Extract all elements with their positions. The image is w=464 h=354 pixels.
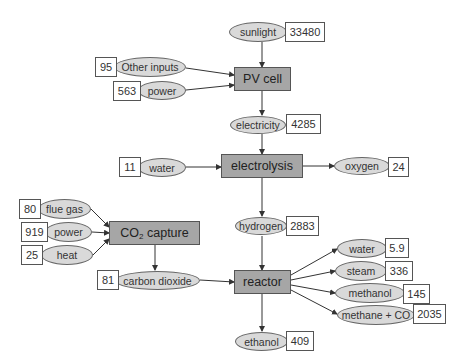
value-ethanol: 409 xyxy=(286,331,314,351)
flow-pv-power: power xyxy=(138,81,186,100)
process-label: CO2 capture xyxy=(120,226,188,241)
flow-electricity: electricity xyxy=(230,116,286,134)
flow-label: methanol xyxy=(348,287,391,299)
value-methanol: 145 xyxy=(403,284,430,304)
flow-ethanol: ethanol xyxy=(235,332,288,351)
flow-label: oxygen xyxy=(345,160,379,172)
value-flue-gas: 80 xyxy=(19,199,41,219)
flow-oxygen: oxygen xyxy=(334,157,390,175)
flow-methanol: methanol xyxy=(335,283,405,303)
process-electrolysis: electrolysis xyxy=(221,154,303,178)
flow-label: heat xyxy=(57,249,77,261)
flow-water-in: water xyxy=(138,158,186,177)
flow-water-out: water xyxy=(337,239,387,258)
flow-sunlight: sunlight xyxy=(229,22,287,42)
flow-label: ethanol xyxy=(244,336,278,348)
value-methane-co: 2035 xyxy=(413,304,446,324)
value-carbon-dioxide: 81 xyxy=(97,270,119,290)
flow-label: hydrogen xyxy=(239,220,283,232)
value-electricity: 4285 xyxy=(286,114,321,134)
flow-label: flue gas xyxy=(46,203,83,215)
value-hydrogen: 2883 xyxy=(286,216,319,236)
value-oxygen: 24 xyxy=(388,157,409,177)
flow-hydrogen: hydrogen xyxy=(235,217,287,235)
flow-label: steam xyxy=(347,265,376,277)
flow-other-inputs: Other inputs xyxy=(114,57,186,77)
value-pv-power: 563 xyxy=(113,81,141,101)
flow-capture-power: power xyxy=(45,222,92,242)
value-other-inputs: 95 xyxy=(95,57,117,77)
flow-label: power xyxy=(148,85,177,97)
process-co2-capture: CO2 capture xyxy=(109,221,200,245)
value-water-out: 5.9 xyxy=(385,238,409,258)
flow-label: electricity xyxy=(236,119,280,131)
flow-label: power xyxy=(54,226,83,238)
value-capture-power: 919 xyxy=(21,222,48,242)
flow-label: water xyxy=(149,162,175,174)
process-reactor: reactor xyxy=(234,270,291,294)
flow-methane-co: methane + CO xyxy=(337,305,415,325)
value-sunlight: 33480 xyxy=(285,22,325,42)
flow-label: Other inputs xyxy=(121,61,178,73)
flow-heat: heat xyxy=(41,245,93,265)
flow-steam: steam xyxy=(335,261,387,281)
flow-carbon-dioxide: carbon dioxide xyxy=(115,271,200,290)
value-heat: 25 xyxy=(21,245,43,265)
flow-label: carbon dioxide xyxy=(123,275,191,287)
value-steam: 336 xyxy=(385,261,413,281)
flow-label: sunlight xyxy=(240,26,276,38)
flow-flue-gas: flue gas xyxy=(38,199,91,219)
process-pv-cell: PV cell xyxy=(234,67,291,91)
value-water-in: 11 xyxy=(119,157,141,177)
flow-label: methane + CO xyxy=(342,309,411,321)
flow-label: water xyxy=(349,243,375,255)
